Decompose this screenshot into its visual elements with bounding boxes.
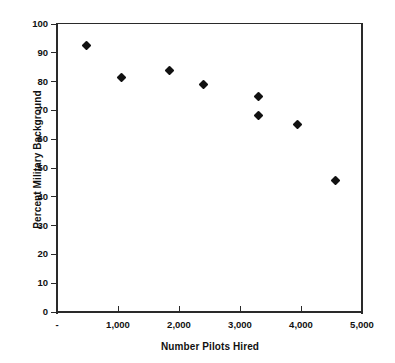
y-tick-mark bbox=[51, 254, 57, 255]
y-tick-label: 90 bbox=[12, 48, 48, 57]
y-tick-mark bbox=[51, 24, 57, 25]
y-tick-mark bbox=[51, 52, 57, 53]
x-tick-mark bbox=[362, 306, 363, 312]
x-tick-mark bbox=[118, 306, 119, 312]
y-tick-mark bbox=[51, 283, 57, 284]
y-tick-label: 70 bbox=[12, 105, 48, 114]
x-tick-label: 2,000 bbox=[149, 320, 209, 330]
y-tick-mark bbox=[51, 225, 57, 226]
x-tick-label: 1,000 bbox=[88, 320, 148, 330]
y-tick-label: 40 bbox=[12, 192, 48, 201]
y-tick-mark bbox=[51, 196, 57, 197]
plot-area bbox=[57, 24, 362, 312]
x-axis-line bbox=[56, 311, 363, 313]
x-tick-mark bbox=[57, 306, 58, 312]
y-tick-mark bbox=[51, 81, 57, 82]
y-axis-title: Percent Military Background bbox=[32, 35, 43, 285]
y-tick-label: 80 bbox=[12, 77, 48, 86]
top-spine bbox=[56, 23, 363, 24]
x-tick-label: 5,000 bbox=[332, 320, 392, 330]
y-tick-mark bbox=[51, 168, 57, 169]
x-axis-title: Number Pilots Hired bbox=[57, 341, 363, 352]
y-tick-label: 30 bbox=[12, 221, 48, 230]
x-tick-mark bbox=[301, 306, 302, 312]
y-tick-label: 100 bbox=[12, 19, 48, 28]
y-tick-label: 20 bbox=[12, 249, 48, 258]
scatter-chart-figure: Percent Military Background 010203040506… bbox=[0, 0, 395, 363]
x-tick-mark bbox=[179, 306, 180, 312]
x-tick-label: 3,000 bbox=[210, 320, 270, 330]
x-tick-mark bbox=[240, 306, 241, 312]
y-tick-label: 10 bbox=[12, 278, 48, 287]
y-tick-mark bbox=[51, 110, 57, 111]
y-tick-label: 60 bbox=[12, 134, 48, 143]
y-axis-line bbox=[56, 23, 58, 314]
x-tick-label: 4,000 bbox=[271, 320, 331, 330]
x-tick-label: - bbox=[27, 320, 87, 330]
right-spine bbox=[361, 23, 363, 314]
y-tick-label: 0 bbox=[12, 307, 48, 316]
y-tick-label: 50 bbox=[12, 163, 48, 172]
y-tick-mark bbox=[51, 139, 57, 140]
